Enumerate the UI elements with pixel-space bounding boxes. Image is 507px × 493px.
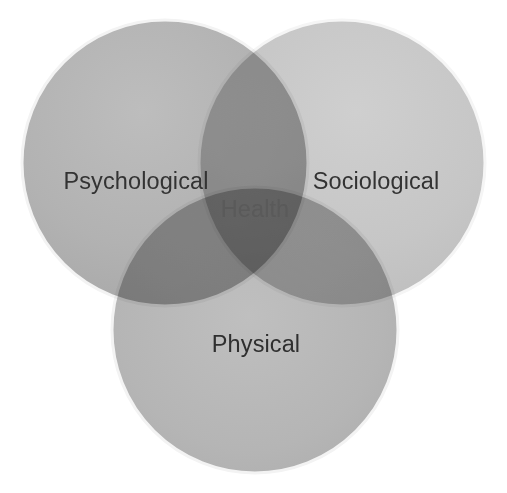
venn-circle-physical[interactable] [112, 187, 398, 473]
circle-shape-physical [112, 187, 398, 473]
venn-circles-canvas [0, 0, 507, 493]
venn-diagram: Psychological Sociological Physical Heal… [0, 0, 507, 493]
